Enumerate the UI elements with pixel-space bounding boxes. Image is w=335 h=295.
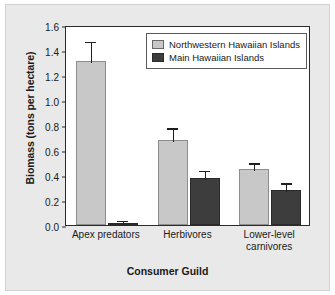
y-tick-label: 0.2	[45, 197, 62, 208]
y-tick: 0.6	[45, 147, 66, 158]
y-tick: 1.4	[45, 47, 66, 58]
y-tick-label: 1.6	[45, 22, 62, 33]
x-tick-label-line: Lower-level	[214, 229, 324, 241]
plot-inner: 0.00.20.40.60.81.01.21.41.6 Northwestern…	[66, 27, 309, 225]
y-tick-label: 1.2	[45, 72, 62, 83]
y-tick-mark	[62, 26, 66, 27]
y-tick-label: 1.4	[45, 47, 62, 58]
error-bar-cap	[249, 163, 260, 164]
y-tick-mark	[62, 176, 66, 177]
y-tick-label: 0.6	[45, 147, 62, 158]
legend-entry-mhi: Main Hawaiian Islands	[152, 51, 300, 64]
legend-swatch-mhi	[152, 53, 164, 62]
error-bar-cap	[117, 221, 128, 222]
y-tick-mark	[62, 101, 66, 102]
chart-legend: Northwestern Hawaiian Islands Main Hawai…	[146, 33, 307, 69]
y-tick-mark	[62, 126, 66, 127]
y-tick-mark	[62, 151, 66, 152]
y-tick: 0.2	[45, 197, 66, 208]
error-bar-cap	[85, 42, 96, 43]
legend-entry-nwhi: Northwestern Hawaiian Islands	[152, 38, 300, 51]
error-bar-cap	[167, 128, 178, 129]
figure-container: Biomass (tons per hectare) 0.00.20.40.60…	[0, 0, 335, 295]
error-bar-stem	[173, 128, 174, 142]
y-tick-label: 1.0	[45, 97, 62, 108]
y-tick-mark	[62, 76, 66, 77]
y-tick: 1.0	[45, 97, 66, 108]
y-tick: 0.4	[45, 172, 66, 183]
error-bar-cap	[281, 183, 292, 184]
error-bar-cap	[199, 171, 210, 172]
bar	[239, 169, 269, 225]
legend-label-nwhi: Northwestern Hawaiian Islands	[169, 39, 300, 50]
y-tick-label: 0.8	[45, 122, 62, 133]
bar	[76, 61, 106, 225]
y-tick-label: 0.4	[45, 172, 62, 183]
error-bar-stem	[286, 183, 287, 192]
y-tick-mark	[62, 201, 66, 202]
bar	[190, 178, 220, 226]
y-axis-title: Biomass (tons per hectare)	[24, 18, 36, 218]
x-tick-label: Lower-levelcarnivores	[214, 229, 324, 253]
legend-label-mhi: Main Hawaiian Islands	[169, 52, 264, 63]
plot-area: 0.00.20.40.60.81.01.21.41.6 Northwestern…	[65, 26, 310, 226]
y-tick: 1.6	[45, 22, 66, 33]
y-tick-mark	[62, 51, 66, 52]
y-tick: 0.8	[45, 122, 66, 133]
y-tick-mark	[62, 226, 66, 227]
bar	[271, 190, 301, 225]
error-bar-stem	[205, 171, 206, 180]
legend-swatch-nwhi	[152, 40, 164, 49]
y-tick: 1.2	[45, 72, 66, 83]
x-axis-title: Consumer Guild	[0, 265, 335, 277]
x-tick-label-line: carnivores	[214, 241, 324, 253]
error-bar-stem	[91, 42, 92, 63]
bar	[158, 140, 188, 225]
